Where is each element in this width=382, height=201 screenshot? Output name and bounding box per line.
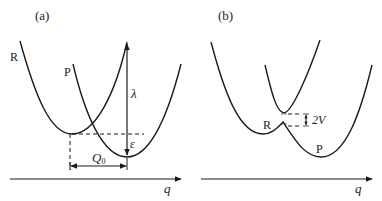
reactant-curve	[20, 41, 127, 134]
panel-a: (a) R P λ ε Q0 q	[10, 8, 181, 196]
panel-a-label: (a)	[35, 8, 49, 23]
lower-adiabatic-curve	[211, 42, 372, 157]
reactant-curve-label: R	[10, 50, 18, 64]
panel-b-label: (b)	[218, 8, 233, 23]
panel-b: (b) 2V R P q	[201, 8, 372, 196]
q0-label: Q0	[92, 150, 105, 166]
q-axis-label-b: q	[355, 181, 362, 196]
reactant-well-label: R	[263, 118, 271, 132]
lambda-label: λ	[130, 86, 137, 101]
epsilon-label: ε	[130, 137, 135, 151]
q-axis-label-a: q	[164, 181, 171, 196]
coupling-label: 2V	[312, 113, 327, 127]
product-well-label: P	[316, 142, 323, 156]
product-curve-label: P	[64, 65, 71, 79]
upper-adiabatic-curve	[265, 40, 320, 113]
diagram-canvas: (a) R P λ ε Q0 q (b)	[0, 0, 382, 201]
